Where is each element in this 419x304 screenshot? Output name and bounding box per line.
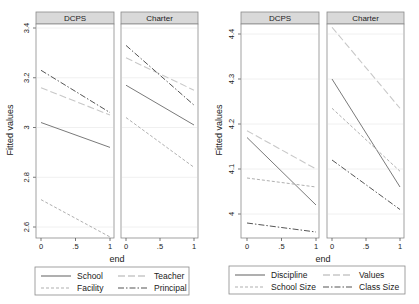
y-tick-label: 4.1: [227, 164, 236, 174]
y-tick-label: 4.2: [227, 119, 236, 129]
panel-title: Charter: [352, 14, 379, 23]
legend-label-facility: Facility: [77, 283, 104, 293]
x-tick-label: .5: [157, 242, 163, 251]
chart-1: Fitted values2.62.833.23.4DCPS0.51Charte…: [5, 12, 198, 295]
legend: SchoolTeacherFacilityPrincipal: [35, 267, 189, 295]
panel-title: DCPS: [64, 14, 86, 23]
x-tick-label: 1: [108, 242, 112, 251]
chart-2: Fitted values44.14.24.34.4DCPS0.51Charte…: [214, 12, 405, 294]
plot-area: [241, 24, 319, 238]
plot-area: [121, 24, 198, 238]
panel-dcps: DCPS0.51: [241, 12, 319, 251]
x-tick-label: 1: [192, 242, 196, 251]
y-tick-label: 2.8: [22, 172, 31, 182]
legend-label-class-size: Class Size: [359, 282, 399, 292]
y-tick-label: 3: [22, 125, 31, 129]
legend-label-school: School: [77, 271, 103, 281]
chart-canvas: Fitted values2.62.833.23.4DCPS0.51Charte…: [0, 0, 419, 304]
legend-label-teacher: Teacher: [154, 271, 184, 281]
x-tick-label: 0: [330, 242, 334, 251]
x-axis-label: end: [109, 254, 124, 264]
x-tick-label: 1: [314, 242, 318, 251]
plot-area: [36, 24, 114, 238]
legend: DisciplineValuesSchool SizeClass Size: [229, 266, 405, 294]
plot-area: [327, 24, 404, 238]
legend-label-values: Values: [359, 270, 384, 280]
x-tick-label: 0: [245, 242, 249, 251]
legend-label-discipline: Discipline: [271, 270, 308, 280]
x-tick-label: 0: [124, 242, 128, 251]
panel-charter: Charter0.51: [121, 12, 198, 251]
x-axis-label: end: [315, 254, 330, 264]
x-tick-label: .5: [72, 242, 78, 251]
legend-label-principal: Principal: [154, 283, 187, 293]
y-axis-label: Fitted values: [5, 104, 15, 156]
panel-charter: Charter0.51: [327, 12, 404, 251]
x-tick-label: .5: [278, 242, 284, 251]
y-axis-label: Fitted values: [214, 104, 224, 156]
y-tick-label: 3.4: [22, 23, 31, 33]
y-tick-label: 2.6: [22, 222, 31, 232]
x-tick-label: 1: [398, 242, 402, 251]
legend-label-school-size: School Size: [271, 282, 316, 292]
panel-title: Charter: [146, 14, 173, 23]
y-tick-label: 3.2: [22, 73, 31, 83]
x-tick-label: 0: [39, 242, 43, 251]
panel-title: DCPS: [269, 14, 291, 23]
y-tick-label: 4.3: [227, 74, 236, 84]
panel-dcps: DCPS0.51: [36, 12, 114, 251]
x-tick-label: .5: [363, 242, 369, 251]
y-tick-label: 4: [227, 212, 236, 216]
y-tick-label: 4.4: [227, 29, 236, 39]
